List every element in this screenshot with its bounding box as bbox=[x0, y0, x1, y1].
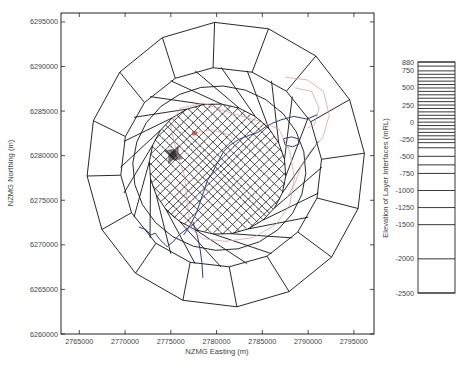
mesh-spoke bbox=[150, 179, 151, 238]
figure: 2765000277000027750002780000278500027900… bbox=[0, 0, 464, 368]
x-axis-title: NZMG Easting (m) bbox=[185, 347, 249, 356]
x-tick-label: 2770000 bbox=[111, 337, 139, 346]
mesh-spoke bbox=[87, 175, 121, 176]
layer-elevation-legend: 8807505002500-250-500-750-1000-1250-1500… bbox=[381, 58, 455, 298]
mesh-spoke bbox=[285, 97, 293, 160]
mesh-spoke bbox=[196, 230, 248, 264]
mesh-spoke bbox=[136, 243, 156, 273]
legend-tick-label: -2000 bbox=[396, 254, 414, 263]
legend-tick-label: -1000 bbox=[396, 186, 414, 195]
y-tick-label: 6285000 bbox=[30, 107, 58, 116]
contours-line bbox=[295, 88, 319, 128]
mesh-spoke bbox=[231, 234, 292, 238]
legend-tick-label: -750 bbox=[400, 169, 414, 178]
y-tick-label: 6260000 bbox=[30, 330, 58, 339]
legend-tick-label: -2500 bbox=[396, 289, 414, 298]
mesh-spoke bbox=[229, 267, 237, 307]
legend-tick-label: 750 bbox=[402, 66, 414, 75]
y-tick-label: 6280000 bbox=[30, 151, 58, 160]
mesh-spoke bbox=[195, 71, 239, 108]
x-tick-label: 2765000 bbox=[65, 337, 93, 346]
mesh-spoke bbox=[162, 38, 175, 79]
mesh-spoke bbox=[93, 121, 125, 137]
mesh-ring bbox=[87, 22, 364, 306]
mesh-spoke bbox=[120, 72, 145, 102]
mesh-spoke bbox=[248, 217, 308, 229]
legend-tick-label: -1250 bbox=[396, 203, 414, 212]
x-tick-label: 2775000 bbox=[157, 337, 185, 346]
mesh-spoke bbox=[183, 262, 190, 300]
y-tick-label: 6275000 bbox=[30, 196, 58, 205]
mesh-spoke bbox=[267, 256, 289, 291]
legend-tick-label: 0 bbox=[410, 118, 414, 127]
mesh-spoke bbox=[298, 232, 332, 257]
x-tick-label: 2780000 bbox=[203, 337, 231, 346]
legend-tick-label: -1500 bbox=[396, 220, 414, 229]
mesh-map-panel: 2765000277000027750002780000278500027900… bbox=[6, 13, 374, 356]
mesh-spoke bbox=[150, 97, 204, 105]
source-marker-icon bbox=[192, 131, 197, 135]
mesh-spoke bbox=[322, 153, 365, 159]
legend-bar bbox=[418, 62, 455, 293]
finite-element-mesh bbox=[87, 22, 364, 306]
legend-tick-label: 250 bbox=[402, 101, 414, 110]
legend-axis-title: Elevation of Layer Interfaces (mRL) bbox=[381, 118, 390, 238]
y-tick-label: 6290000 bbox=[30, 62, 58, 71]
mesh-inner-line bbox=[234, 184, 285, 233]
mesh-spoke bbox=[102, 213, 132, 230]
x-tick-label: 2790000 bbox=[294, 337, 322, 346]
y-tick-label: 6270000 bbox=[30, 240, 58, 249]
mesh-spoke bbox=[124, 145, 153, 193]
x-tick-label: 2785000 bbox=[248, 337, 276, 346]
legend-tick-label: -250 bbox=[400, 135, 414, 144]
legend-tick-label: 880 bbox=[402, 58, 414, 67]
mesh-spoke bbox=[286, 56, 316, 91]
y-axis-title: NZMG Northing (m) bbox=[6, 139, 15, 206]
mesh-spoke bbox=[213, 22, 215, 67]
mesh-spoke bbox=[213, 234, 271, 254]
lake-line bbox=[283, 137, 299, 147]
mesh-spoke bbox=[317, 198, 358, 209]
y-tick-label: 6265000 bbox=[30, 285, 58, 294]
x-axis-ticks: 2765000277000027750002780000278500027900… bbox=[65, 13, 368, 346]
plot-frame bbox=[61, 13, 374, 334]
legend-tick-label: 500 bbox=[402, 83, 414, 92]
x-tick-label: 2795000 bbox=[340, 337, 368, 346]
legend-tick-label: -500 bbox=[400, 152, 414, 161]
legend-tick-labels: 8807505002500-250-500-750-1000-1250-1500… bbox=[396, 58, 414, 298]
mesh-spoke bbox=[252, 29, 268, 72]
y-tick-label: 6295000 bbox=[30, 17, 58, 26]
mesh-inner-line bbox=[205, 155, 283, 231]
